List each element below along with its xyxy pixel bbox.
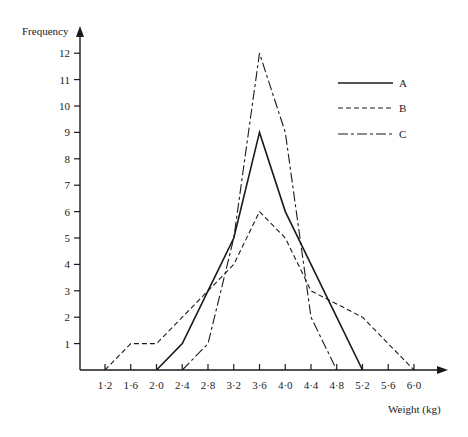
- y-axis-arrow-icon: [76, 26, 84, 37]
- y-tick-label: 1: [65, 338, 71, 350]
- y-ticks: 123456789101112: [59, 47, 80, 349]
- x-axis-arrow-icon: [437, 366, 448, 374]
- series-lines: [105, 53, 414, 370]
- legend-label-c: C: [399, 128, 406, 140]
- y-tick-label: 9: [65, 126, 71, 138]
- x-tick-label: 2·8: [201, 379, 216, 391]
- x-tick-label: 3·2: [226, 379, 241, 391]
- frequency-chart: Frequency Weight (kg) 123456789101112 1·…: [0, 0, 468, 437]
- legend-label-b: B: [399, 102, 406, 114]
- x-axis-title: Weight (kg): [388, 403, 441, 416]
- series-line-b: [105, 212, 414, 370]
- x-tick-label: 2·4: [175, 379, 190, 391]
- x-tick-label: 5·6: [381, 379, 396, 391]
- y-tick-label: 8: [65, 153, 71, 165]
- x-tick-label: 3·6: [252, 379, 267, 391]
- y-tick-label: 6: [65, 206, 71, 218]
- x-tick-label: 1·2: [98, 379, 113, 391]
- y-tick-label: 12: [59, 47, 70, 59]
- y-tick-label: 2: [65, 311, 71, 323]
- legend: ABC: [338, 77, 407, 140]
- x-tick-label: 2·0: [149, 379, 164, 391]
- series-line-a: [157, 132, 363, 370]
- x-tick-label: 4·0: [278, 379, 293, 391]
- y-tick-label: 7: [65, 179, 71, 191]
- x-tick-label: 1·6: [123, 379, 138, 391]
- x-tick-label: 4·4: [304, 379, 319, 391]
- x-tick-label: 6·0: [407, 379, 422, 391]
- y-axis-title: Frequency: [22, 25, 69, 37]
- y-tick-label: 10: [59, 100, 71, 112]
- y-tick-label: 11: [59, 74, 70, 86]
- y-tick-label: 4: [65, 258, 71, 270]
- y-tick-label: 5: [65, 232, 71, 244]
- y-tick-label: 3: [65, 285, 71, 297]
- x-tick-label: 5·2: [355, 379, 370, 391]
- legend-label-a: A: [399, 77, 407, 89]
- x-ticks: 1·21·62·02·42·83·23·64·04·44·85·25·66·0: [98, 364, 422, 391]
- x-tick-label: 4·8: [329, 379, 344, 391]
